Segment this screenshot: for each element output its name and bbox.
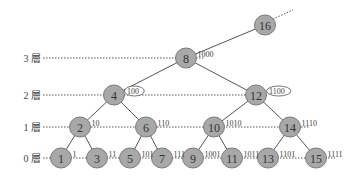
tree-node-1: 1	[51, 148, 72, 168]
tree-node-3: 3	[87, 148, 108, 168]
binary-label-14: 1110	[302, 119, 317, 128]
binary-label-12: 1100	[269, 87, 285, 96]
tree-node-5: 5	[120, 148, 141, 168]
binary-label-6: 110	[158, 119, 170, 128]
node-label: 16	[259, 19, 271, 33]
binary-label-2: 10	[92, 119, 100, 128]
binary-label-3: 11	[109, 150, 117, 159]
binary-tree-diagram: 3 層2 層1 層0 層 16841226101413579111315 100…	[0, 0, 362, 179]
binary-label-13: 1101	[280, 150, 296, 159]
binary-label-1: 1	[73, 150, 77, 159]
level-3-label: 3 層	[24, 53, 42, 64]
node-label: 14	[284, 121, 296, 135]
node-label: 5	[127, 152, 133, 166]
tree-node-2: 2	[70, 117, 91, 137]
node-label: 4	[111, 89, 117, 103]
binary-label-5: 101	[142, 150, 154, 159]
tree-node-9: 9	[183, 148, 204, 168]
level-labels: 3 層2 層1 層0 層	[24, 53, 42, 164]
tree-node-11: 11	[222, 148, 243, 168]
level-1-label: 1 層	[24, 122, 42, 133]
level-2-label: 2 層	[24, 90, 42, 101]
binary-label-10: 1010	[226, 119, 242, 128]
binary-label-15: 1111	[328, 150, 343, 159]
node-label: 1	[58, 152, 64, 166]
binary-label-9: 1001	[205, 150, 221, 159]
tree-node-10: 10	[204, 117, 225, 137]
node-label: 8	[183, 52, 189, 66]
tree-node-15: 15	[306, 148, 327, 168]
node-label: 13	[262, 152, 274, 166]
level-0-label: 0 層	[24, 153, 42, 164]
tree-node-8: 8	[176, 48, 197, 68]
tree-node-14: 14	[280, 117, 301, 137]
tree-edges	[61, 10, 316, 158]
node-label: 6	[143, 121, 149, 135]
tree-node-4: 4	[104, 85, 125, 105]
level-lines	[43, 58, 335, 158]
binary-label-8: 1000	[198, 50, 214, 59]
node-label: 9	[190, 152, 196, 166]
node-label: 15	[310, 152, 322, 166]
tree-node-6: 6	[136, 117, 157, 137]
binary-label-11: 1011	[244, 150, 260, 159]
node-label: 10	[208, 121, 220, 135]
tree-node-7: 7	[152, 148, 173, 168]
tree-node-13: 13	[258, 148, 279, 168]
binary-label-7: 111	[174, 150, 185, 159]
root-continuation-line	[273, 10, 293, 19]
node-label: 2	[77, 121, 83, 135]
node-label: 3	[94, 152, 100, 166]
edge-8-12	[186, 58, 256, 95]
node-label: 12	[250, 89, 262, 103]
tree-node-12: 12	[246, 85, 267, 105]
node-label: 11	[226, 152, 238, 166]
node-label: 7	[159, 152, 165, 166]
tree-node-16: 16	[255, 15, 276, 35]
binary-label-4: 100	[127, 87, 139, 96]
